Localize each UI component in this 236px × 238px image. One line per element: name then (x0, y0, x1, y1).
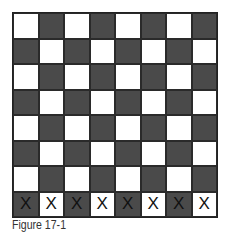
marked-square: X (90, 192, 116, 218)
figure-caption: Figure 17-1 (12, 218, 66, 232)
board-square (39, 64, 65, 90)
board-square (141, 39, 167, 65)
board-square (13, 90, 39, 116)
board-square (64, 115, 90, 141)
board-square (192, 64, 218, 90)
board-square (115, 13, 141, 39)
board-square (115, 64, 141, 90)
board-square (115, 90, 141, 116)
board-square (64, 64, 90, 90)
marked-square: X (115, 192, 141, 218)
board-square (192, 13, 218, 39)
board-square (90, 166, 116, 192)
board-square (141, 141, 167, 167)
board-square (13, 141, 39, 167)
board-square (115, 39, 141, 65)
board-square (90, 115, 116, 141)
board-square (39, 115, 65, 141)
board-square (115, 166, 141, 192)
marked-square: X (39, 192, 65, 218)
marked-square: X (192, 192, 218, 218)
board-square (90, 90, 116, 116)
board-square (39, 166, 65, 192)
checkerboard: XXXXXXXX (12, 12, 218, 218)
board-square (166, 166, 192, 192)
board-square (39, 90, 65, 116)
board-square (13, 64, 39, 90)
board-square (166, 141, 192, 167)
board-square (90, 39, 116, 65)
board-square (13, 13, 39, 39)
board-square (192, 90, 218, 116)
board-square (13, 166, 39, 192)
board-square (166, 115, 192, 141)
marked-square: X (141, 192, 167, 218)
marked-square: X (64, 192, 90, 218)
board-square (192, 115, 218, 141)
board-square (64, 141, 90, 167)
board-square (115, 115, 141, 141)
board-square (90, 13, 116, 39)
board-square (64, 13, 90, 39)
board-square (64, 39, 90, 65)
board-square (90, 141, 116, 167)
board-square (115, 141, 141, 167)
board-square (90, 64, 116, 90)
board-square (39, 141, 65, 167)
board-square (141, 64, 167, 90)
board-square (64, 90, 90, 116)
board-square (192, 141, 218, 167)
board-square (166, 64, 192, 90)
board-square (166, 39, 192, 65)
board-square (141, 90, 167, 116)
board-square (192, 39, 218, 65)
board-square (166, 13, 192, 39)
board-square (64, 166, 90, 192)
board-square (141, 166, 167, 192)
board-square (39, 39, 65, 65)
board-square (39, 13, 65, 39)
board-square (166, 90, 192, 116)
board-square (141, 13, 167, 39)
marked-square: X (13, 192, 39, 218)
board-square (13, 115, 39, 141)
board-square (141, 115, 167, 141)
marked-square: X (166, 192, 192, 218)
board-square (13, 39, 39, 65)
board-square (192, 166, 218, 192)
